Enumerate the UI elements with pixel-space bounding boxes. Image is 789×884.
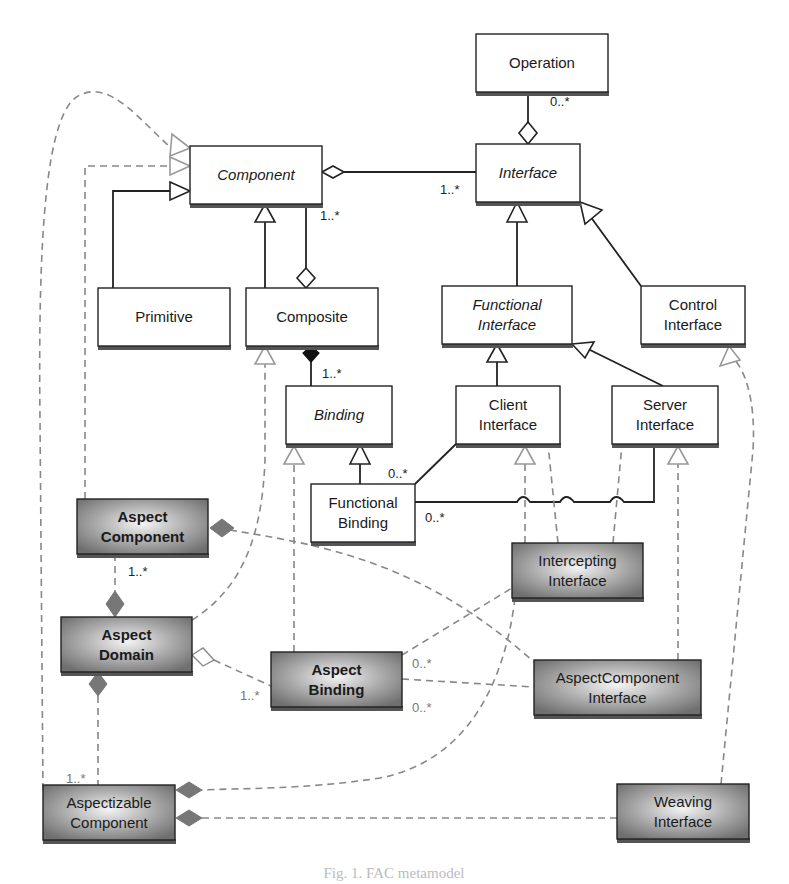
class-composite: Composite — [246, 288, 379, 350]
class-server-interface: ServerInterface — [612, 386, 719, 448]
class-label: Aspect — [101, 626, 151, 643]
class-binding: Binding — [286, 386, 393, 448]
multiplicity: 1..* — [440, 182, 460, 197]
class-weaving-interface: WeavingInterface — [617, 784, 750, 843]
class-label: Functional — [328, 494, 397, 511]
class-label: Interface — [478, 316, 536, 333]
dashed-arrowheads — [89, 134, 740, 826]
class-aspectizable-component: AspectizableComponent — [43, 785, 176, 844]
class-aspect-component: AspectComponent — [77, 499, 209, 558]
class-label: Client — [489, 396, 528, 413]
class-aspectcomponent-interface: AspectComponentInterface — [534, 660, 702, 719]
multiplicity: 1..* — [240, 688, 260, 703]
fac-metamodel-diagram: OperationComponentInterfacePrimitiveComp… — [0, 0, 789, 884]
class-label: Binding — [309, 681, 365, 698]
class-label: Interface — [479, 416, 537, 433]
class-label: Interface — [499, 164, 557, 181]
box-frame — [456, 386, 560, 444]
figure-caption: Fig. 1. FAC metamodel — [324, 865, 465, 881]
class-aspect-domain: AspectDomain — [61, 617, 193, 676]
class-label: Binding — [338, 514, 388, 531]
multiplicity: 0..* — [412, 656, 432, 671]
class-boxes: OperationComponentInterfacePrimitiveComp… — [43, 34, 750, 844]
class-label: Interface — [548, 572, 606, 589]
class-functional-interface: FunctionalInterface — [442, 286, 573, 348]
class-control-interface: ControlInterface — [641, 286, 746, 348]
class-label: Functional — [472, 296, 542, 313]
box-frame — [641, 286, 745, 344]
multiplicity: 0..* — [425, 510, 445, 525]
class-label: Component — [217, 166, 295, 183]
class-label: Binding — [314, 406, 365, 423]
multiplicity: 1..* — [66, 771, 86, 786]
box-frame — [442, 286, 572, 344]
class-label: Aspect — [117, 508, 167, 525]
class-label: Interface — [588, 689, 646, 706]
class-label: Aspectizable — [66, 794, 151, 811]
class-label: Primitive — [135, 308, 193, 325]
class-label: Control — [669, 296, 717, 313]
class-label: Interface — [636, 416, 694, 433]
class-intercepting-interface: InterceptingInterface — [512, 543, 644, 602]
class-label: Weaving — [654, 793, 712, 810]
class-aspect-binding: AspectBinding — [271, 652, 403, 711]
class-label: Interface — [664, 316, 722, 333]
box-frame — [311, 484, 415, 542]
multiplicity: 1..* — [320, 208, 340, 223]
multiplicity: 0..* — [412, 700, 432, 715]
multiplicity: 1..* — [322, 366, 342, 381]
class-operation: Operation — [476, 34, 609, 96]
class-label: Operation — [509, 54, 575, 71]
class-primitive: Primitive — [98, 288, 231, 350]
class-label: Composite — [276, 308, 348, 325]
class-label: Component — [101, 528, 184, 545]
class-client-interface: ClientInterface — [456, 386, 561, 448]
multiplicity: 1..* — [128, 564, 148, 579]
class-label: Component — [70, 814, 148, 831]
class-interface: Interface — [476, 144, 581, 206]
class-label: Server — [643, 396, 687, 413]
class-functional-binding: FunctionalBinding — [311, 484, 416, 546]
class-label: Interface — [654, 813, 712, 830]
multiplicity: 0..* — [388, 466, 408, 481]
class-label: Domain — [99, 646, 154, 663]
class-component: Component — [190, 146, 323, 208]
multiplicity: 0..* — [550, 94, 570, 109]
box-frame — [612, 386, 718, 444]
class-label: AspectComponent — [556, 669, 680, 686]
class-label: Aspect — [311, 661, 361, 678]
class-label: Intercepting — [538, 552, 616, 569]
